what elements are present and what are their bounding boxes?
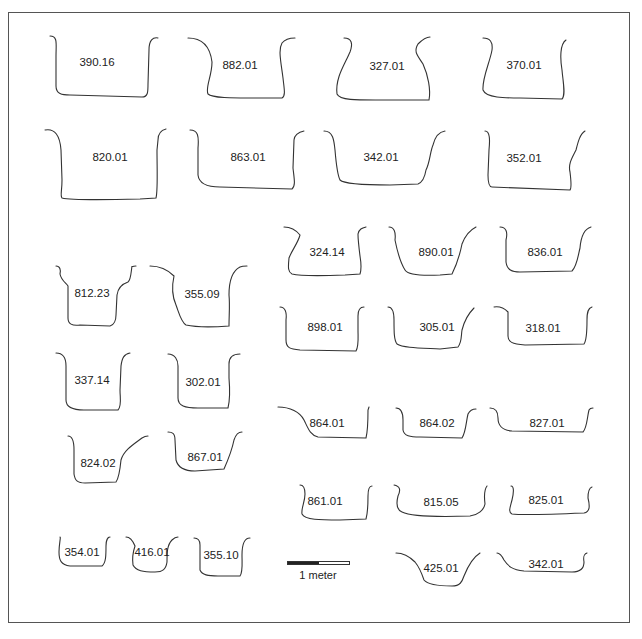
profile-drawings: [0, 0, 642, 639]
profile-label: 390.16: [79, 56, 114, 68]
scale-bar-label: 1 meter: [299, 569, 336, 581]
profile-label: 815.05: [423, 496, 458, 508]
profile-label: 337.14: [74, 374, 109, 386]
profile-label: 370.01: [506, 59, 541, 71]
profile-label: 836.01: [527, 246, 562, 258]
scale-bar: [287, 561, 350, 565]
profile-label: 864.01: [309, 417, 344, 429]
profile-label: 812.23: [74, 287, 109, 299]
profile-label: 318.01: [525, 322, 560, 334]
profile-label: 827.01: [529, 417, 564, 429]
profile-label: 898.01: [307, 321, 342, 333]
profile-label: 354.01: [64, 546, 99, 558]
profile-label: 324.14: [309, 246, 344, 258]
profile-label: 342.01: [528, 558, 563, 570]
profile-label: 302.01: [185, 376, 220, 388]
profile-label: 305.01: [419, 321, 454, 333]
profile-label: 824.02: [80, 457, 115, 469]
profile-label: 861.01: [307, 495, 342, 507]
profile-label: 342.01: [363, 151, 398, 163]
profile-label: 355.09: [184, 288, 219, 300]
profile-label: 890.01: [418, 246, 453, 258]
scale-bar-light-segment: [319, 562, 350, 564]
profile-820-01: [45, 129, 166, 200]
profile-label: 355.10: [203, 549, 238, 561]
profile-label: 820.01: [92, 151, 127, 163]
scale-bar-dark-segment: [288, 562, 319, 564]
profile-label: 882.01: [222, 59, 257, 71]
profile-label: 864.02: [419, 417, 454, 429]
profile-label: 425.01: [423, 562, 458, 574]
profile-label: 416.01: [134, 546, 169, 558]
profile-label: 863.01: [230, 151, 265, 163]
profile-label: 867.01: [187, 451, 222, 463]
profile-label: 825.01: [528, 494, 563, 506]
profile-label: 327.01: [369, 60, 404, 72]
profile-label: 352.01: [506, 152, 541, 164]
